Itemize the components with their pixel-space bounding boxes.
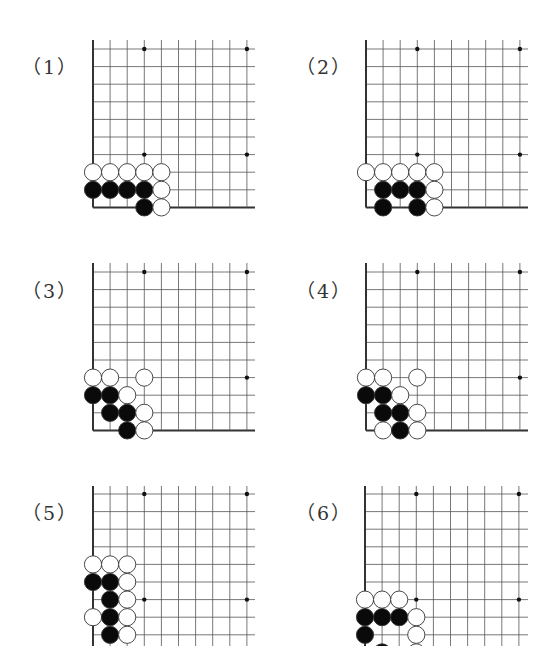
black-stone-icon — [356, 626, 373, 643]
star-point-icon — [414, 597, 418, 601]
white-stone-icon — [374, 591, 391, 608]
white-stone-icon — [356, 591, 373, 608]
star-point-icon — [414, 492, 418, 496]
star-point-icon — [517, 597, 521, 601]
white-stone-icon — [408, 609, 425, 626]
white-stone-icon — [408, 626, 425, 643]
black-stone-icon — [391, 609, 408, 626]
black-stone-icon — [374, 609, 391, 626]
star-point-icon — [517, 492, 521, 496]
black-stone-icon — [356, 609, 373, 626]
go-board-diagram — [0, 0, 554, 646]
white-stone-icon — [391, 591, 408, 608]
